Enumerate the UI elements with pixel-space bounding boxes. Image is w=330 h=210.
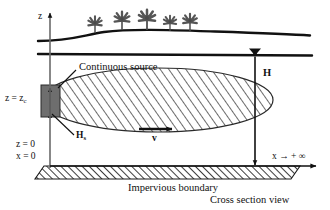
continuous-source-label: Continuous source	[79, 62, 157, 73]
tree-icon	[183, 14, 197, 31]
tree-icon	[164, 16, 176, 31]
view-caption: Cross section view	[210, 195, 289, 206]
ground-surface-line	[38, 30, 310, 41]
source-height-label: Hs	[76, 131, 86, 141]
source-elevation-subscript: c	[24, 97, 27, 104]
impervious-boundary-band	[35, 166, 300, 179]
tree-icon	[88, 16, 101, 33]
tree-icon	[139, 10, 155, 30]
source-height-subscript: s	[83, 134, 86, 141]
z-axis-label: z	[38, 12, 42, 22]
water-table-line	[38, 54, 312, 56]
velocity-label: v	[152, 134, 157, 144]
aquifer-thickness-label: H	[263, 68, 271, 79]
x-infinity-label: x → + ∞	[272, 152, 306, 162]
cross-section-diagram: z Continuous source z = zc Hs z = 0 x = …	[0, 0, 330, 210]
origin-z-label: z = 0	[16, 140, 35, 150]
source-elevation-text: z = z	[5, 93, 24, 103]
source-elevation-label: z = zc	[5, 94, 27, 104]
diagram-canvas	[0, 0, 330, 210]
impervious-boundary-label: Impervious boundary	[128, 183, 218, 194]
tree-icon	[115, 12, 130, 30]
origin-x-label: x = 0	[16, 152, 36, 162]
contaminant-plume	[43, 68, 273, 132]
